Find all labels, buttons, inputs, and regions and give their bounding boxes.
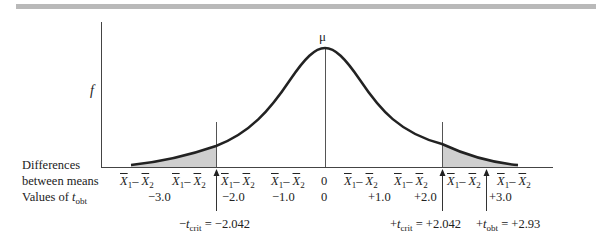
mean-label: μ	[319, 30, 326, 44]
distribution-curve	[131, 48, 518, 165]
t-value: +3.0	[489, 190, 512, 205]
diff-label: X1– X2	[394, 174, 428, 189]
distribution-plot	[0, 0, 596, 243]
row-label-differences: Differences	[22, 158, 80, 172]
row-label-values-of-t: Values of tobt	[22, 190, 87, 204]
diff-label: X1– X2	[447, 174, 481, 189]
y-axis-label: f	[90, 84, 94, 98]
t-value: +2.0	[414, 190, 437, 205]
diff-label: X1– X2	[497, 174, 531, 189]
t-value: +1.0	[368, 190, 391, 205]
t-value: 0	[321, 190, 327, 205]
upper-crit-annotation: +tcrit = +2.042	[390, 217, 461, 231]
row-label-between-means: between means	[22, 174, 99, 188]
zero-label: 0	[321, 174, 327, 189]
t-value: −2.0	[222, 190, 245, 205]
obt-annotation: +tobt = +2.93	[476, 217, 540, 231]
t-value: −3.0	[148, 190, 171, 205]
diff-label: X1– X2	[221, 174, 255, 189]
diff-label: X1– X2	[172, 174, 206, 189]
lower-crit-annotation: −tcrit = −2.042	[179, 217, 250, 231]
diff-label: X1– X2	[120, 174, 154, 189]
diff-label: X1– X2	[271, 174, 305, 189]
t-value: −1.0	[272, 190, 295, 205]
diff-label: X1– X2	[344, 174, 378, 189]
